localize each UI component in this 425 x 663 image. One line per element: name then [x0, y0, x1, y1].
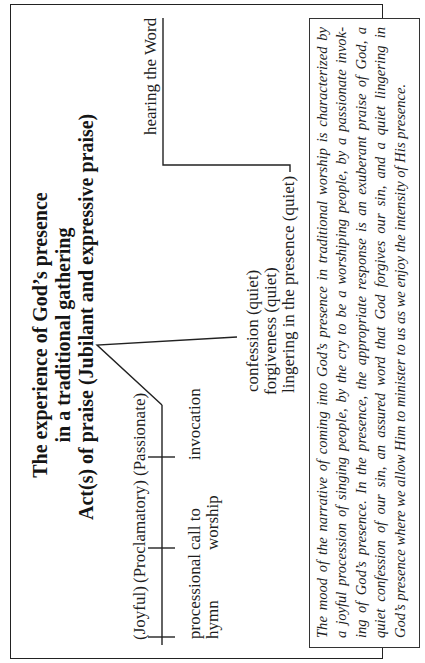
explanation-note-box: The mood of the narrative of coming into…: [309, 18, 420, 648]
mood-label-passionate: (Passionate): [131, 393, 149, 476]
step-call-to-worship-line2: worship: [204, 495, 222, 550]
response-confession: confession (quiet): [244, 270, 262, 392]
step-invocation: invocation: [186, 388, 204, 460]
response-lingering: lingering in the presence (quiet): [280, 176, 298, 393]
note-line-1: The mood of the narrative of coming into…: [313, 27, 332, 638]
note-line-2: a joyful procession of singing people, b…: [332, 27, 351, 638]
note-line-4: quiet confession of our sin, an assured …: [371, 27, 390, 638]
note-line-3: ing of God’s presence. In the presence, …: [352, 27, 371, 638]
response-forgiveness: forgiveness (quiet): [262, 267, 280, 395]
diagram-page: The experience of God’s presence in a tr…: [0, 0, 425, 663]
mood-label-proclamatory: (Proclamatory): [131, 480, 149, 583]
note-line-5: God’s presence where we allow Him to min…: [391, 27, 410, 638]
step-processional-hymn-line1: processional: [186, 554, 204, 639]
mood-label-joyful: (Joyful): [131, 586, 149, 640]
step-processional-hymn-line2: hymn: [204, 600, 222, 639]
hearing-the-word-label: hearing the Word: [142, 18, 160, 135]
step-call-to-worship-line1: call to: [186, 508, 204, 550]
